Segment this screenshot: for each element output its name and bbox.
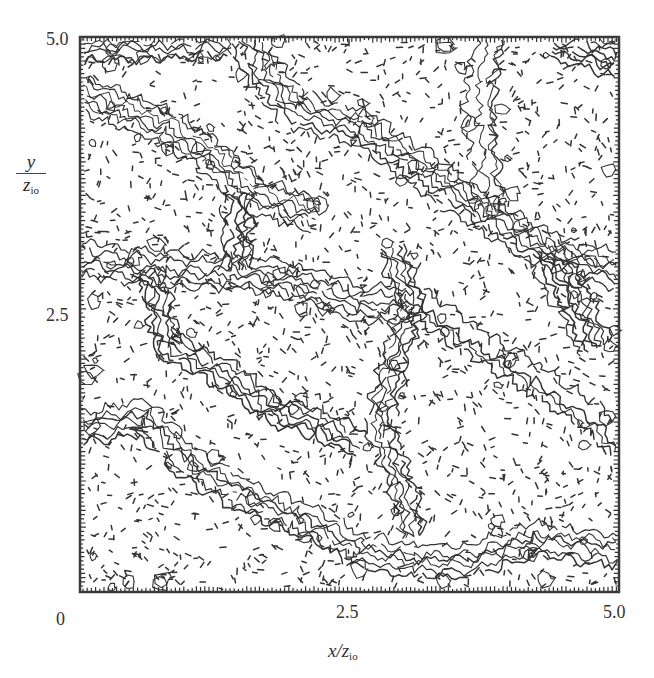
contour-plot — [0, 0, 654, 678]
solid-contours — [78, 35, 621, 591]
y-tick-label-2.5: 2.5 — [46, 306, 69, 324]
y-tick-label-5: 5.0 — [46, 30, 69, 48]
x-axis-label-main: x/z — [328, 640, 349, 661]
x-tick-label-2.5: 2.5 — [336, 603, 359, 621]
x-tick-label-5: 5.0 — [603, 603, 626, 621]
fraction-bar — [16, 173, 46, 174]
x-axis-label: x/zio — [328, 641, 358, 662]
y-axis-label-denominator: zio — [14, 175, 48, 200]
y-axis-label-den-sub: io — [30, 184, 39, 196]
y-axis-label: y zio — [14, 152, 48, 200]
y-axis-label-numerator: y — [14, 152, 48, 172]
x-tick-label-0: 0 — [56, 610, 65, 628]
x-axis-label-sub: io — [349, 650, 358, 662]
